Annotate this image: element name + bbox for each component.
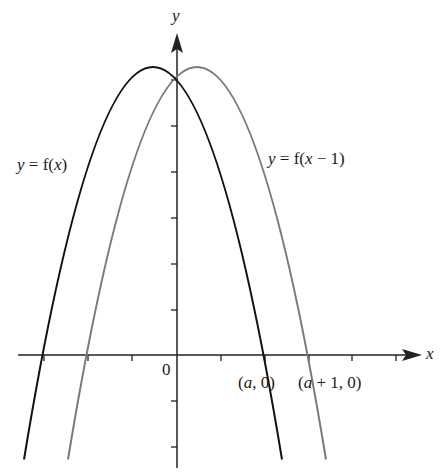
curve-f-label-x: x [54,155,62,174]
point-a1-var: a [304,373,313,392]
x-axis-ticks [44,355,396,361]
curve-f-label: y = f(x) [17,156,67,173]
curve-f-x [24,67,282,460]
point-a-plus-1-label: (a + 1, 0) [298,374,361,391]
curve-g-label-rest: − 1) [313,149,345,168]
x-axis-label: x [426,345,434,362]
curve-f-x-minus-1 [68,67,326,460]
y-axis-ticks [171,80,177,447]
curve-g-label-x: x [305,149,313,168]
origin-label: 0 [162,361,171,378]
point-a1-rest: + 1, 0) [312,373,361,392]
curve-g-label: y = f(x − 1) [268,150,345,167]
curve-g-label-eq: = f( [276,149,305,168]
point-a-var: a [244,373,253,392]
function-transformation-graph: y x 0 y = f(x) y = f(x − 1) (a, 0) (a + … [0,0,445,473]
y-axis-label: y [172,7,180,24]
curve-f-label-y: y [17,155,25,174]
curve-g-label-y: y [268,149,276,168]
curve-f-label-close: ) [62,155,68,174]
point-a-label: (a, 0) [238,374,275,391]
point-a-rest: , 0) [252,373,275,392]
curve-f-label-eq: = f( [25,155,54,174]
graph-canvas [0,0,445,473]
